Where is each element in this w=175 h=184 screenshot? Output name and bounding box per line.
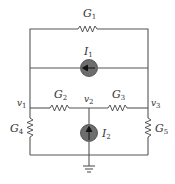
label-g3: G3 bbox=[112, 88, 125, 102]
resistor-g5-icon bbox=[145, 118, 151, 137]
label-g2: G2 bbox=[54, 88, 67, 102]
g4-branch bbox=[27, 108, 33, 155]
wire-g1-right bbox=[97, 29, 148, 68]
label-node-v2: v2 bbox=[84, 94, 94, 106]
resistor-g1-icon bbox=[78, 26, 97, 32]
label-g1: G1 bbox=[83, 7, 96, 21]
resistor-g2-icon bbox=[50, 105, 69, 111]
label-g5: G5 bbox=[155, 122, 168, 136]
resistor-g3-icon bbox=[108, 105, 127, 111]
i1-branch bbox=[30, 60, 148, 77]
label-node-v1: v1 bbox=[17, 98, 27, 110]
label-i2: I2 bbox=[101, 127, 111, 141]
label-node-v3: v3 bbox=[151, 98, 161, 110]
g5-branch bbox=[145, 108, 151, 155]
ground-icon bbox=[83, 155, 95, 172]
wire-g1-left bbox=[30, 29, 78, 68]
label-g4: G4 bbox=[10, 122, 24, 136]
i2-branch bbox=[81, 108, 98, 155]
circuit-diagram: G1 I1 G2 G3 G4 G5 I2 v1 v2 v3 bbox=[0, 0, 175, 184]
resistor-g4-icon bbox=[27, 118, 33, 137]
circuit-svg: G1 I1 G2 G3 G4 G5 I2 v1 v2 v3 bbox=[0, 0, 175, 184]
label-i1: I1 bbox=[83, 45, 93, 59]
